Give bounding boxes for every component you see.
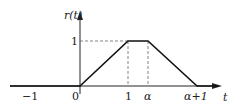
x-tick-alpha-plus-one: α+1 (184, 90, 208, 103)
x-tick-zero: 0 (72, 90, 79, 103)
x-tick-neg-one: −1 (22, 90, 38, 103)
y-tick-one: 1 (71, 35, 78, 48)
x-axis-label: t (223, 91, 228, 104)
x-tick-one: 1 (125, 90, 132, 103)
y-axis-label: r(t) (64, 9, 82, 22)
x-tick-alpha: α (144, 90, 152, 103)
y-axis (77, 11, 83, 94)
signal-curve (10, 41, 218, 86)
trapezoid-diagram: r(t) t 1 −1 0 1 α α+1 (0, 0, 237, 109)
guide-lines (80, 41, 148, 86)
